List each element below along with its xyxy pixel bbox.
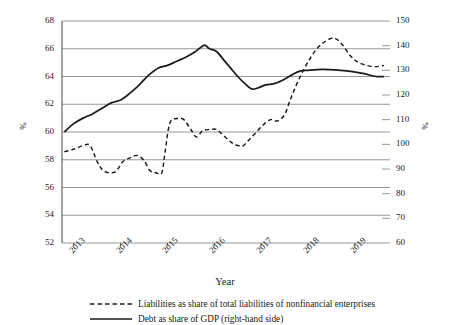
y-tick-label-left-60: 60: [28, 126, 54, 136]
legend-item-liabilities: Liabilities as share of total liabilitie…: [0, 296, 450, 311]
y-tick-label-right-70: 70: [396, 212, 422, 222]
y-tick-label-left-66: 66: [28, 43, 54, 53]
y-tick-label-right-130: 130: [396, 64, 422, 74]
y-tick-label-left-52: 52: [28, 237, 54, 247]
y-tick-label-left-56: 56: [28, 182, 54, 192]
dashed-line-icon: [90, 299, 132, 309]
y-tick-label-left-68: 68: [28, 15, 54, 25]
series-group: [64, 38, 384, 174]
y-tick-label-left-54: 54: [28, 209, 54, 219]
y-tick-label-left-62: 62: [28, 98, 54, 108]
series-line-2: [64, 45, 384, 132]
legend-item-debt: Debt as share of GDP (right-hand side): [0, 311, 450, 325]
x-axis-title: Year: [0, 276, 450, 287]
y-tick-label-right-110: 110: [396, 114, 422, 124]
gridlines-group: [62, 21, 390, 215]
legend-label-liabilities: Liabilities as share of total liabilitie…: [138, 299, 375, 309]
y-tick-label-right-100: 100: [396, 138, 422, 148]
y-tick-label-right-140: 140: [396, 40, 422, 50]
y-tick-label-right-90: 90: [396, 163, 422, 173]
y-axis-label-left: %: [18, 115, 28, 137]
y-tick-label-right-80: 80: [396, 188, 422, 198]
solid-line-icon: [90, 314, 132, 324]
y-tick-label-left-64: 64: [28, 71, 54, 81]
y-tick-label-right-60: 60: [396, 237, 422, 247]
series-line-1: [64, 38, 384, 174]
y-tick-label-right-120: 120: [396, 89, 422, 99]
y-tick-label-right-150: 150: [396, 15, 422, 25]
y-tick-label-left-58: 58: [28, 154, 54, 164]
chart-legend: Liabilities as share of total liabilitie…: [0, 296, 450, 325]
legend-label-debt: Debt as share of GDP (right-hand side): [138, 314, 283, 324]
